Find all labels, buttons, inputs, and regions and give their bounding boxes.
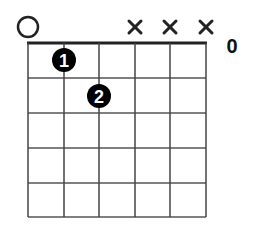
svg-text:2: 2 <box>94 87 104 107</box>
chord-diagram: 0 1 2 <box>0 0 254 229</box>
string-lines <box>28 43 206 217</box>
finger-dot-2: 2 <box>87 84 111 108</box>
muted-string-marker <box>164 21 176 33</box>
starting-fret-label: 0 <box>226 35 237 57</box>
muted-string-marker <box>129 21 141 33</box>
svg-text:1: 1 <box>59 51 69 71</box>
fret-lines <box>28 78 206 217</box>
finger-dot-1: 1 <box>52 48 76 72</box>
open-string-marker <box>18 17 38 37</box>
muted-string-marker <box>200 21 212 33</box>
